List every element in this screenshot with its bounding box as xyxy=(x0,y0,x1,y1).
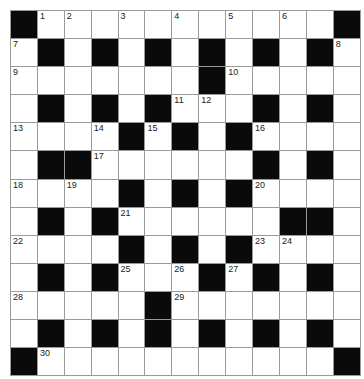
crossword-cell[interactable] xyxy=(253,208,280,236)
crossword-cell[interactable]: 1 xyxy=(38,11,65,39)
crossword-cell[interactable] xyxy=(280,180,307,208)
crossword-cell[interactable]: 26 xyxy=(172,264,199,292)
crossword-cell[interactable] xyxy=(253,348,280,376)
crossword-cell[interactable] xyxy=(226,208,253,236)
crossword-cell[interactable] xyxy=(92,180,119,208)
crossword-cell[interactable] xyxy=(199,208,226,236)
crossword-cell[interactable] xyxy=(65,39,92,67)
crossword-cell[interactable]: 14 xyxy=(92,123,119,151)
crossword-cell[interactable] xyxy=(172,208,199,236)
crossword-cell[interactable]: 25 xyxy=(119,264,146,292)
crossword-cell[interactable] xyxy=(334,208,361,236)
crossword-cell[interactable] xyxy=(334,320,361,348)
crossword-cell[interactable] xyxy=(145,348,172,376)
crossword-cell[interactable]: 10 xyxy=(226,67,253,95)
crossword-cell[interactable] xyxy=(226,348,253,376)
crossword-cell[interactable] xyxy=(334,151,361,179)
crossword-cell[interactable] xyxy=(145,180,172,208)
crossword-cell[interactable] xyxy=(334,180,361,208)
crossword-cell[interactable]: 23 xyxy=(253,236,280,264)
crossword-cell[interactable] xyxy=(307,180,334,208)
crossword-cell[interactable] xyxy=(11,320,38,348)
crossword-cell[interactable] xyxy=(65,264,92,292)
crossword-cell[interactable]: 5 xyxy=(226,11,253,39)
crossword-cell[interactable] xyxy=(145,67,172,95)
crossword-cell[interactable] xyxy=(199,348,226,376)
crossword-cell[interactable]: 4 xyxy=(172,11,199,39)
crossword-cell[interactable]: 16 xyxy=(253,123,280,151)
crossword-cell[interactable] xyxy=(280,95,307,123)
crossword-cell[interactable]: 15 xyxy=(145,123,172,151)
crossword-cell[interactable] xyxy=(307,292,334,320)
crossword-cell[interactable] xyxy=(199,236,226,264)
crossword-cell[interactable] xyxy=(119,292,146,320)
crossword-cell[interactable] xyxy=(119,151,146,179)
crossword-cell[interactable] xyxy=(280,67,307,95)
crossword-cell[interactable] xyxy=(253,67,280,95)
crossword-cell[interactable]: 18 xyxy=(11,180,38,208)
crossword-cell[interactable]: 30 xyxy=(38,348,65,376)
crossword-cell[interactable] xyxy=(199,151,226,179)
crossword-cell[interactable] xyxy=(334,264,361,292)
crossword-cell[interactable] xyxy=(172,67,199,95)
crossword-cell[interactable]: 22 xyxy=(11,236,38,264)
crossword-cell[interactable] xyxy=(145,236,172,264)
crossword-cell[interactable]: 8 xyxy=(334,39,361,67)
crossword-cell[interactable] xyxy=(280,39,307,67)
crossword-cell[interactable] xyxy=(65,67,92,95)
crossword-cell[interactable] xyxy=(334,95,361,123)
crossword-cell[interactable]: 13 xyxy=(11,123,38,151)
crossword-cell[interactable] xyxy=(334,292,361,320)
crossword-cell[interactable] xyxy=(11,151,38,179)
crossword-cell[interactable] xyxy=(65,348,92,376)
crossword-cell[interactable]: 2 xyxy=(65,11,92,39)
crossword-cell[interactable] xyxy=(38,180,65,208)
crossword-cell[interactable] xyxy=(65,95,92,123)
crossword-cell[interactable]: 28 xyxy=(11,292,38,320)
crossword-cell[interactable] xyxy=(334,123,361,151)
crossword-cell[interactable] xyxy=(92,11,119,39)
crossword-cell[interactable] xyxy=(307,67,334,95)
crossword-cell[interactable]: 24 xyxy=(280,236,307,264)
crossword-cell[interactable] xyxy=(65,208,92,236)
crossword-cell[interactable] xyxy=(145,151,172,179)
crossword-cell[interactable] xyxy=(145,264,172,292)
crossword-cell[interactable] xyxy=(38,67,65,95)
crossword-cell[interactable] xyxy=(11,208,38,236)
crossword-cell[interactable] xyxy=(307,348,334,376)
crossword-cell[interactable] xyxy=(38,236,65,264)
crossword-cell[interactable] xyxy=(307,11,334,39)
crossword-cell[interactable] xyxy=(199,123,226,151)
crossword-cell[interactable] xyxy=(38,123,65,151)
crossword-cell[interactable]: 17 xyxy=(92,151,119,179)
crossword-cell[interactable] xyxy=(172,151,199,179)
crossword-cell[interactable] xyxy=(307,123,334,151)
crossword-cell[interactable] xyxy=(172,320,199,348)
crossword-cell[interactable]: 29 xyxy=(172,292,199,320)
crossword-cell[interactable] xyxy=(11,95,38,123)
crossword-cell[interactable]: 19 xyxy=(65,180,92,208)
crossword-cell[interactable] xyxy=(119,39,146,67)
crossword-cell[interactable] xyxy=(92,292,119,320)
crossword-cell[interactable] xyxy=(253,11,280,39)
crossword-cell[interactable] xyxy=(280,348,307,376)
crossword-cell[interactable] xyxy=(199,180,226,208)
crossword-cell[interactable] xyxy=(145,11,172,39)
crossword-cell[interactable]: 11 xyxy=(172,95,199,123)
crossword-cell[interactable] xyxy=(334,67,361,95)
crossword-cell[interactable] xyxy=(280,320,307,348)
crossword-cell[interactable] xyxy=(65,236,92,264)
crossword-cell[interactable] xyxy=(145,208,172,236)
crossword-cell[interactable] xyxy=(92,67,119,95)
crossword-cell[interactable] xyxy=(226,95,253,123)
crossword-cell[interactable] xyxy=(65,292,92,320)
crossword-cell[interactable] xyxy=(65,320,92,348)
crossword-cell[interactable]: 12 xyxy=(199,95,226,123)
crossword-cell[interactable]: 3 xyxy=(119,11,146,39)
crossword-cell[interactable] xyxy=(226,320,253,348)
crossword-cell[interactable] xyxy=(11,264,38,292)
crossword-cell[interactable] xyxy=(172,39,199,67)
crossword-cell[interactable]: 7 xyxy=(11,39,38,67)
crossword-cell[interactable] xyxy=(119,320,146,348)
crossword-cell[interactable] xyxy=(92,236,119,264)
